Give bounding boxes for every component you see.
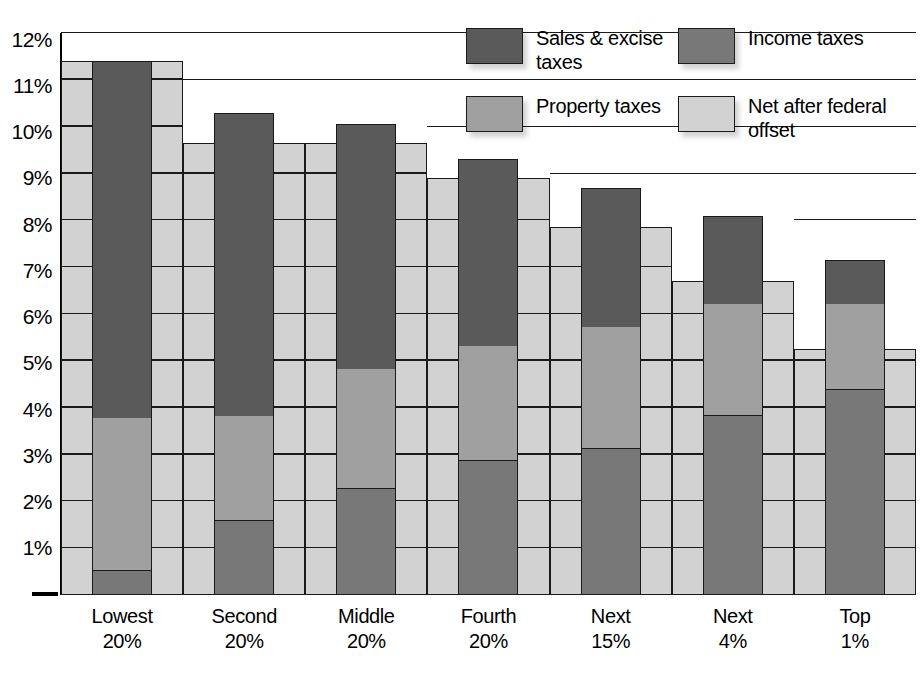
gridline (150, 172, 183, 173)
gridline (61, 172, 94, 173)
gridline (550, 547, 583, 548)
x-axis-label-line2: 20% (427, 629, 549, 654)
gridline (395, 453, 428, 454)
segment-income-taxes (337, 489, 395, 594)
x-axis-label-line1: Next (550, 604, 672, 629)
segment-income-taxes (704, 416, 762, 594)
gridline (305, 359, 338, 360)
gridline (61, 500, 94, 501)
gridline (183, 359, 216, 360)
legend-label-income-taxes: Income taxes (748, 26, 918, 50)
gridline (395, 547, 428, 548)
segment-property-taxes (582, 327, 640, 449)
gridline (639, 453, 672, 454)
gridline (183, 406, 216, 407)
segment-income-taxes (215, 521, 273, 594)
gridline (395, 172, 428, 173)
gridline (305, 500, 338, 501)
gridline (672, 547, 705, 548)
gridline (517, 453, 550, 454)
gridline (639, 500, 672, 501)
y-axis-tick-labels: 12% 11% 10% 9% 8% 7% 6% 5% 4% 3% 2% 1% (0, 0, 58, 678)
net-after-offset-bar (395, 143, 428, 595)
gridline (183, 219, 216, 220)
gridline (761, 406, 794, 407)
gridline (550, 266, 583, 267)
gridline (794, 406, 827, 407)
y-tick-12: 12% (11, 28, 52, 52)
y-tick-2: 2% (23, 490, 52, 514)
gridline (517, 500, 550, 501)
gridline (794, 547, 827, 548)
net-after-offset-bar (305, 143, 338, 595)
x-axis-label-line2: 20% (305, 629, 427, 654)
gridline (395, 219, 428, 220)
gridline (273, 172, 306, 173)
gridline (427, 313, 460, 314)
x-axis-label: Next15% (550, 604, 672, 654)
gridline (395, 266, 428, 267)
bar-group (61, 33, 183, 595)
gridline (517, 219, 550, 220)
gridline (273, 266, 306, 267)
gridline (61, 125, 94, 126)
gridline (761, 313, 794, 314)
y-tick-7: 7% (23, 259, 52, 283)
gridline (273, 453, 306, 454)
gridline (395, 500, 428, 501)
gridline (672, 500, 705, 501)
stacked-bar (458, 159, 518, 595)
gridline (273, 359, 306, 360)
y-tick-10: 10% (11, 120, 52, 144)
gridline (150, 219, 183, 220)
segment-property-taxes (215, 416, 273, 521)
gridline (639, 406, 672, 407)
gridline (517, 266, 550, 267)
net-after-offset-bar (183, 143, 216, 595)
gridline (61, 359, 94, 360)
gridline (395, 406, 428, 407)
gridline (883, 359, 916, 360)
stacked-bar (825, 260, 885, 595)
gridline (61, 406, 94, 407)
gridline (794, 453, 827, 454)
gridline (273, 406, 306, 407)
y-tick-5: 5% (23, 351, 52, 375)
gridline (305, 266, 338, 267)
gridline (883, 547, 916, 548)
chart-legend: Sales & excise taxes Income taxes Proper… (466, 28, 916, 146)
x-axis-label-line2: 20% (183, 629, 305, 654)
gridline (183, 313, 216, 314)
y-tick-3: 3% (23, 444, 52, 468)
gridline (672, 313, 705, 314)
gridline (517, 359, 550, 360)
gridline (761, 500, 794, 501)
gridline (639, 359, 672, 360)
gridline (61, 266, 94, 267)
gridline (883, 500, 916, 501)
legend-swatch-sales-excise (466, 28, 523, 64)
x-axis-label-line1: Next (672, 604, 794, 629)
gridline (427, 406, 460, 407)
gridline (517, 313, 550, 314)
gridline (150, 500, 183, 501)
y-tick-4: 4% (23, 398, 52, 422)
gridline (550, 406, 583, 407)
gridline (427, 359, 460, 360)
x-axis-label-line1: Middle (305, 604, 427, 629)
gridline (761, 359, 794, 360)
gridline (427, 547, 460, 548)
gridline (427, 266, 460, 267)
segment-property-taxes (459, 346, 517, 461)
gridline (150, 313, 183, 314)
gridline (305, 406, 338, 407)
net-after-offset-bar (150, 61, 183, 595)
gridline (273, 313, 306, 314)
gridline (305, 313, 338, 314)
gridline (305, 453, 338, 454)
gridline (183, 547, 216, 548)
gridline (550, 359, 583, 360)
net-after-offset-bar (883, 349, 916, 595)
gridline (427, 219, 460, 220)
gridline (150, 266, 183, 267)
